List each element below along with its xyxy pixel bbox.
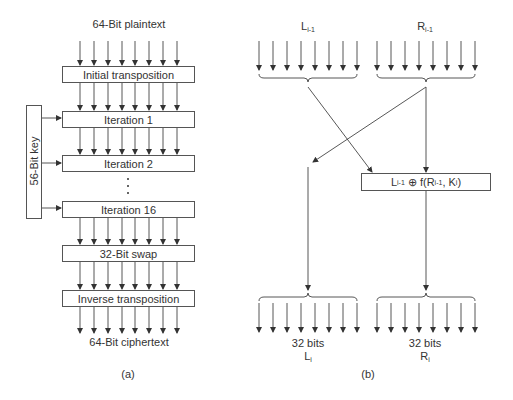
r-input-label: Ri-1 (417, 20, 433, 36)
fb-op: ⊕ f(R (405, 176, 435, 189)
fb-l-sub: i-1 (397, 179, 405, 186)
iteration-16-box: Iteration 16 (62, 201, 195, 218)
lo-sub: i (310, 356, 312, 363)
iteration-1-box: Iteration 1 (62, 111, 195, 128)
l-output-label: Li (304, 350, 312, 366)
iteration-2-box: Iteration 2 (62, 155, 195, 172)
caption-a: (a) (121, 368, 134, 381)
key-label: 56-Bit key (28, 129, 40, 193)
ro-main: R (420, 350, 428, 362)
inverse-transposition-box: Inverse transposition (62, 290, 195, 307)
ro-sub: i (428, 356, 430, 363)
l-sub: i-1 (307, 26, 315, 33)
initial-transposition-box: Initial transposition (62, 66, 195, 83)
fb-close: ) (457, 176, 461, 188)
caption-b: (b) (361, 368, 374, 381)
fb-k: , K (442, 176, 455, 188)
round-function-box: Li-1 ⊕ f(Ri-1, Ki) (361, 173, 491, 191)
ciphertext-label: 64-Bit ciphertext (89, 336, 168, 349)
r-sub: i-1 (425, 26, 433, 33)
r-main: R (417, 20, 425, 32)
r-output-label: Ri (420, 350, 430, 366)
fb-r-sub: i-1 (435, 179, 443, 186)
l-input-label: Li-1 (301, 20, 315, 36)
swap-box: 32-Bit swap (62, 245, 195, 262)
plaintext-label: 64-Bit plaintext (93, 18, 166, 31)
ellipsis-dots (127, 178, 130, 198)
l-output-bits: 32 bits (292, 337, 324, 350)
r-output-bits: 32 bits (409, 337, 441, 350)
